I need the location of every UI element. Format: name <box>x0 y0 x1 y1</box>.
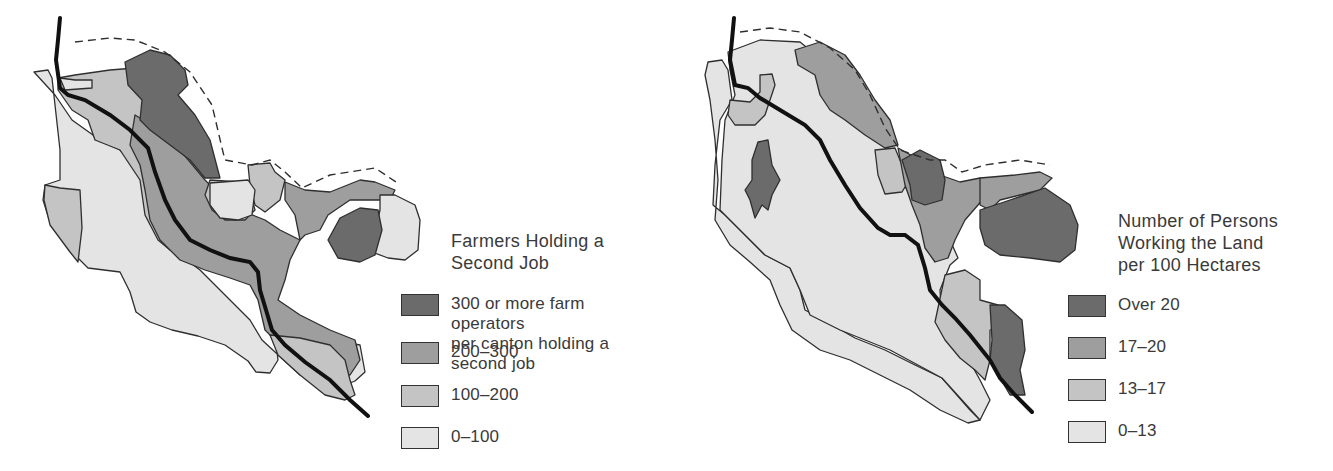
region-light-north-stub <box>60 78 92 90</box>
swatch-medium <box>401 385 439 407</box>
legend-title: Farmers Holding a Second Job <box>451 230 604 274</box>
legend-item-17-20: 17–20 <box>1068 337 1166 359</box>
swatch-darkest <box>401 294 439 316</box>
legend-item-over-20: Over 20 <box>1068 295 1180 317</box>
swatch-light <box>1068 421 1106 443</box>
swatch-light <box>401 427 439 449</box>
region-darkest-southeast <box>990 305 1025 395</box>
legend-persons-working-land: Number of Persons Working the Land per 1… <box>1068 210 1333 470</box>
legend-item-200-300: 200–300 <box>401 342 519 364</box>
legend-farmers-second-job: Farmers Holding a Second Job 300 or more… <box>401 230 661 470</box>
swatch-dark <box>401 342 439 364</box>
legend-item-100-200: 100–200 <box>401 385 519 407</box>
region-darkest-east <box>328 208 382 262</box>
map-persons-working-land <box>680 0 1120 471</box>
swatch-dark <box>1068 337 1106 359</box>
legend-item-13-17: 13–17 <box>1068 379 1166 401</box>
map-farmers-second-job <box>0 0 460 471</box>
legend-item-0-13: 0–13 <box>1068 421 1157 443</box>
swatch-darkest <box>1068 295 1106 317</box>
region-medium-west <box>44 185 82 262</box>
legend-item-0-100: 0–100 <box>401 427 499 449</box>
swatch-medium <box>1068 379 1106 401</box>
region-light-center-island <box>210 180 255 220</box>
legend-title: Number of Persons Working the Land per 1… <box>1118 210 1278 276</box>
